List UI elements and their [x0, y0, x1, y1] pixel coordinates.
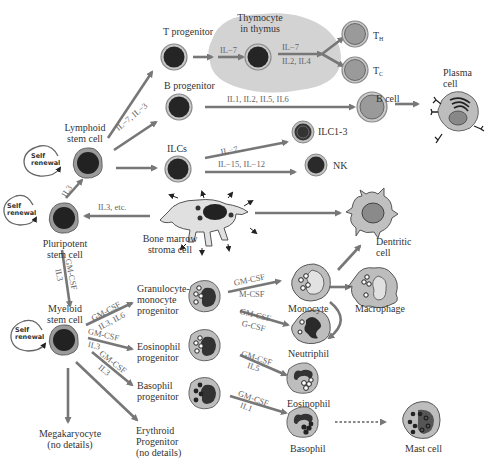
- ilc13-label: ILC1-3: [318, 126, 347, 137]
- neutrophil-label: Neutriphil: [288, 348, 329, 359]
- label-line2: progenitor: [137, 352, 180, 363]
- gm-progenitor-label: Granulocyte- monocyte progenitor: [137, 283, 190, 316]
- eosinophil-graphic: [287, 363, 318, 393]
- thymocyte-label: Thymocyte in thymus: [230, 12, 290, 34]
- self-renewal-line2: renewal: [7, 210, 36, 217]
- erythroid-label: Erythroid Progenitor (no details): [136, 425, 181, 458]
- megakaryocyte-label: Megakaryocyte (no details): [30, 428, 110, 450]
- label-line3: progenitor: [137, 305, 190, 316]
- label-line1: Plasma: [443, 67, 472, 78]
- label-line1: Granulocyte-: [137, 283, 190, 294]
- plasma-cell-graphic: [431, 92, 484, 143]
- label-line1: Dentritic: [376, 236, 412, 247]
- dendritic-cell-label: Dentritic cell: [376, 236, 412, 258]
- label-line2: in thymus: [230, 23, 290, 34]
- cytokine-pluri-myeloid-2: IL3: [53, 268, 64, 282]
- b-cell-label: B cell: [376, 93, 400, 104]
- neutrophil-graphic: [292, 310, 331, 344]
- label-line2: (no details): [30, 439, 110, 450]
- tc-label: TC: [373, 65, 383, 80]
- mast-cell-graphic: [403, 402, 440, 439]
- self-renewal-label-lymphoid: Self renewal: [31, 153, 60, 167]
- gm-progenitor-graphic: [189, 281, 220, 312]
- ilcs-cell: [165, 156, 191, 182]
- basophil-label: Basophil: [290, 443, 326, 454]
- label-line1: Pluripotent: [30, 238, 100, 249]
- pluripotent-stem-cell: [49, 203, 78, 233]
- self-renewal-label-pluripotent: Self renewal: [7, 203, 36, 217]
- th-label-sub: H: [379, 36, 383, 42]
- lymphoid-stem-cell-label: Lymphoid stem cell: [50, 122, 120, 144]
- self-renewal-label-myeloid: Self renewal: [15, 327, 44, 341]
- mast-cell-label: Mast cell: [405, 443, 442, 454]
- macrophage-label: Macrophage: [355, 303, 405, 314]
- b-progenitor-cell: [166, 94, 192, 120]
- cytokine-ilcs-nk: IL−15, IL−12: [218, 160, 265, 169]
- myeloid-stem-cell: [49, 325, 78, 355]
- cytokine-stroma-pluri: IL3, etc.: [98, 203, 127, 212]
- cytokine-thymocyte-t-2: IL2, IL4: [282, 57, 311, 66]
- cytokine-gm-mono-2: M-CSF: [239, 290, 265, 299]
- eosinophil-label: Eosinophil: [287, 398, 330, 409]
- lymphoid-stem-cell: [73, 148, 102, 178]
- self-renewal-line2: renewal: [31, 160, 60, 167]
- th-cell: [342, 21, 368, 47]
- eos-progenitor-label: Eosinophil progenitor: [137, 341, 180, 363]
- label-line2: cell: [443, 78, 472, 89]
- label-line1: Eosinophil: [137, 341, 180, 352]
- t-progenitor-label: T progenitor: [163, 26, 213, 37]
- dendritic-cell-graphic: [346, 188, 398, 238]
- label-line1: Bone marrow: [135, 233, 205, 244]
- b-progenitor-label: B progenitor: [164, 80, 215, 91]
- baso-progenitor-graphic: [189, 378, 220, 409]
- thymocyte-cell: [245, 44, 271, 70]
- eos-progenitor-graphic: [189, 330, 220, 361]
- pluripotent-stem-cell-label: Pluripotent stem cell: [30, 238, 100, 260]
- th-label: TH: [373, 30, 383, 45]
- label-line2: progenitor: [137, 391, 179, 402]
- label-line1: Thymocyte: [230, 12, 290, 23]
- label-line2: Progenitor: [136, 436, 181, 447]
- self-renewal-line2: renewal: [15, 334, 44, 341]
- monocyte-label: Monocyte: [288, 303, 329, 314]
- label-line1: Megakaryocyte: [30, 428, 110, 439]
- label-line2: monocyte: [137, 294, 190, 305]
- label-line1: Lymphoid: [50, 122, 120, 133]
- cytokine-b-prog-b: IL1, IL2, IL5, IL6: [227, 95, 289, 104]
- cytokine-t-thymocyte: IL−7: [220, 46, 237, 55]
- stroma-cell-label: Bone marrow stroma cell: [135, 233, 205, 255]
- plasma-cell-label: Plasma cell: [443, 67, 472, 89]
- t-progenitor-cell: [161, 44, 187, 70]
- label-line2: stroma cell: [135, 244, 205, 255]
- macrophage-graphic: [348, 268, 397, 308]
- hematopoiesis-diagram: Self renewal Self renewal Self renewal L…: [0, 0, 500, 466]
- monocyte-graphic: [292, 264, 331, 301]
- nk-label: NK: [333, 160, 347, 171]
- label-line3: (no details): [136, 447, 181, 458]
- label-line2: cell: [376, 247, 412, 258]
- baso-progenitor-label: Basophil progenitor: [137, 380, 179, 402]
- tc-cell: [342, 57, 368, 83]
- label-line1: Erythroid: [136, 425, 181, 436]
- label-line1: Myeloid: [30, 303, 100, 314]
- ilcs-label: ILCs: [167, 143, 187, 154]
- tc-label-sub: C: [379, 71, 383, 77]
- label-line1: Basophil: [137, 380, 179, 391]
- cytokine-thymocyte-t-1: IL−7: [282, 43, 299, 52]
- nk-cell: [305, 154, 327, 176]
- label-line2: stem cell: [50, 133, 120, 144]
- ilc13-cell: [292, 121, 314, 143]
- basophil-graphic: [287, 407, 318, 437]
